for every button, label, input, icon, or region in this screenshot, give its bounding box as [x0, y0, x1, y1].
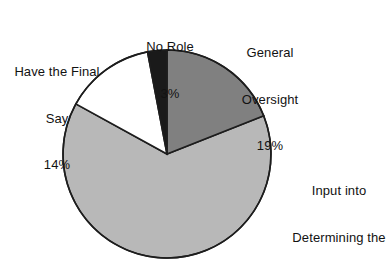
pie-label-input-budget-name-line-1: Input into	[286, 183, 392, 199]
pie-label-general-oversight-name-line-1: General	[216, 45, 324, 61]
pie-chart-figure: No Role 3% General Oversight 19% Have th…	[0, 0, 392, 268]
pie-label-have-the-final-say: Have the Final Say 14%	[0, 33, 116, 204]
pie-label-have-the-final-say-value: 14%	[0, 157, 116, 173]
pie-label-have-the-final-say-name-line-1: Have the Final	[0, 64, 116, 80]
pie-label-no-role-name: No Role	[118, 39, 222, 55]
pie-label-input-into-determining-the-budget: Input into Determining the Budget 64%	[286, 152, 392, 268]
pie-label-no-role-value: 3%	[118, 86, 222, 102]
pie-label-general-oversight-name-line-2: Oversight	[216, 92, 324, 108]
pie-label-input-budget-name-line-2: Determining the	[286, 230, 392, 246]
pie-label-no-role: No Role 3%	[118, 8, 222, 132]
pie-label-have-the-final-say-name-line-2: Say	[0, 111, 116, 127]
